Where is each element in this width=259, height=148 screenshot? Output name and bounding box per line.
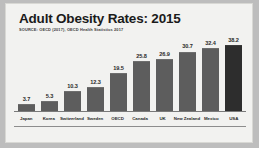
bar-series: 3.7 5.3 10.3 12.3 19.5 25.8 <box>14 38 246 112</box>
chart-plot-area: 3.7 5.3 10.3 12.3 19.5 25.8 <box>14 38 246 134</box>
chart-source-note: SOURCE: OECD (2017), OECD Health Statist… <box>19 27 123 32</box>
bar-rect[interactable] <box>133 61 150 112</box>
bar-rect[interactable] <box>64 91 81 112</box>
bar-item-canada[interactable]: 25.8 <box>130 38 153 112</box>
bar-item-oecd[interactable]: 19.5 <box>107 38 130 112</box>
bar-value-label: 3.7 <box>23 97 30 103</box>
bar-value-label: 19.5 <box>113 66 124 72</box>
x-tick-label-japan: Japan <box>15 113 37 124</box>
x-axis-tick-labels: Japan Korea Switzerland Sweden OECD Cana… <box>14 113 246 124</box>
bar-item-japan[interactable]: 3.7 <box>15 38 38 112</box>
bar-rect[interactable] <box>179 52 196 112</box>
footer-rule <box>14 126 246 127</box>
x-tick-label-oecd: OECD <box>106 113 128 124</box>
bar-rect[interactable] <box>156 59 173 112</box>
chart-card: Adult Obesity Rates: 2015 SOURCE: OECD (… <box>5 3 253 143</box>
chart-title: Adult Obesity Rates: 2015 <box>19 11 181 26</box>
bar-item-usa[interactable]: 38.2 <box>222 38 245 112</box>
bar-item-new-zealand[interactable]: 30.7 <box>176 38 199 112</box>
bar-value-label: 12.3 <box>90 80 101 86</box>
bar-rect[interactable] <box>225 45 242 112</box>
bar-value-label: 26.9 <box>159 52 170 58</box>
bar-value-label: 30.7 <box>182 44 193 50</box>
bar-rect[interactable] <box>87 87 104 112</box>
bar-item-switzerland[interactable]: 10.3 <box>61 38 84 112</box>
bar-value-label: 32.4 <box>205 41 216 47</box>
x-tick-label-canada: Canada <box>129 113 151 124</box>
bar-value-label: 10.3 <box>67 84 78 90</box>
x-tick-label-uk: UK <box>151 113 173 124</box>
x-tick-label-new-zealand: New Zealand <box>174 113 200 124</box>
bar-value-label: 25.8 <box>136 54 147 60</box>
bar-item-uk[interactable]: 26.9 <box>153 38 176 112</box>
x-tick-label-mexico: Mexico <box>200 113 222 124</box>
bar-rect[interactable] <box>202 48 219 112</box>
bar-item-korea[interactable]: 5.3 <box>38 38 61 112</box>
x-tick-label-sweden: Sweden <box>84 113 106 124</box>
bar-rect[interactable] <box>110 73 127 112</box>
bar-value-label: 38.2 <box>228 38 239 44</box>
bar-item-sweden[interactable]: 12.3 <box>84 38 107 112</box>
x-tick-label-usa: USA <box>223 113 245 124</box>
bar-item-mexico[interactable]: 32.4 <box>199 38 222 112</box>
bar-value-label: 5.3 <box>46 94 53 100</box>
x-tick-label-switzerland: Switzerland <box>60 113 84 124</box>
x-axis-line <box>14 111 246 112</box>
x-tick-label-korea: Korea <box>37 113 59 124</box>
